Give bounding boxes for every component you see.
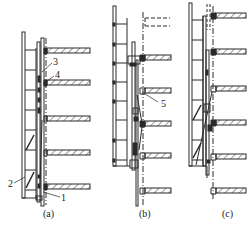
caption-c: (c)	[222, 208, 233, 220]
panel-a	[14, 32, 90, 206]
future-slab-b	[145, 18, 170, 26]
callout-5: 5	[161, 98, 166, 109]
callout-2: 2	[8, 178, 13, 189]
floor-slabs-c	[216, 13, 246, 193]
callout-1: 1	[61, 192, 66, 203]
floor-slabs-a	[47, 48, 90, 189]
scaffold-frame-a	[22, 32, 38, 198]
callout-4: 4	[55, 69, 60, 80]
guide-rail-a	[36, 38, 47, 206]
climbing-scaffold-diagram: 3 4 2 1	[0, 0, 251, 231]
panel-c	[189, 3, 246, 200]
guide-rail-b	[128, 42, 145, 206]
caption-a: (a)	[43, 208, 54, 220]
floor-slabs-b	[145, 55, 171, 193]
scaffold-frame-b	[113, 6, 130, 166]
callout-3: 3	[53, 56, 58, 67]
caption-b: (b)	[139, 208, 151, 220]
